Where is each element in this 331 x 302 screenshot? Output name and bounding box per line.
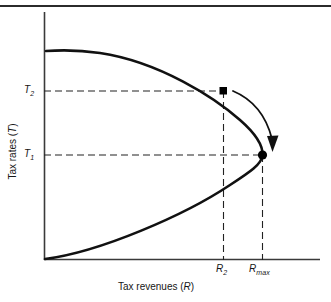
marker-point-T2 bbox=[220, 87, 228, 95]
x-tick-label-Rmax: Rmax bbox=[249, 263, 270, 276]
y-tick-label-T2: T2 bbox=[24, 84, 34, 97]
y-axis-title: Tax rates (T) bbox=[7, 88, 18, 216]
marker-point-T1 bbox=[258, 150, 267, 159]
movement-arrow-head bbox=[267, 136, 279, 153]
x-axis-title: Tax revenues (R) bbox=[118, 281, 194, 292]
x-tick-label-R2: R2 bbox=[216, 263, 227, 276]
y-tick-label-T1: T1 bbox=[24, 148, 34, 161]
laffer-curve-figure: T2 T1 R2 Rmax Tax rates (T) Tax revenues… bbox=[0, 0, 331, 302]
laffer-curve-plot bbox=[0, 0, 331, 302]
